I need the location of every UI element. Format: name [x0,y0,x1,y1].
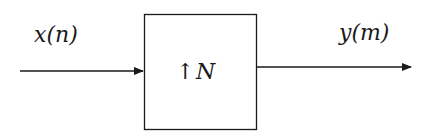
upsampler-diagram: x(n) ↑ N y(m) [0,0,432,138]
input-signal-label: x(n) [34,22,78,47]
up-arrow-icon: ↑ [176,59,194,84]
upsampling-factor: N [195,59,216,84]
upsampler-block: ↑ N [145,15,257,130]
output-signal-label: y(m) [338,20,389,45]
